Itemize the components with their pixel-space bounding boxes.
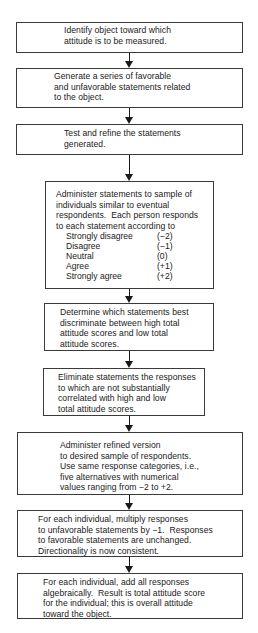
scale-row-disagree: Disagree (−1) bbox=[66, 241, 196, 251]
step-sum-line-2: algebraically. Result is total attitude … bbox=[43, 588, 205, 598]
step-reverse-line-3: to favorable statements are unchanged. bbox=[38, 535, 191, 545]
scale-label: Neutral bbox=[66, 251, 94, 261]
scale-value: (+2) bbox=[157, 271, 173, 281]
scale-row-strongly-agree: Strongly agree (+2) bbox=[66, 271, 196, 281]
step-sum-line-3: for the individual; this is overall atti… bbox=[43, 598, 193, 608]
step-determine-line-3: attitude scores and low total bbox=[60, 328, 168, 338]
step-determine-line-2: discriminate between high total bbox=[60, 318, 180, 328]
step-eliminate-line-4: total attitude scores. bbox=[58, 404, 136, 414]
step-administer-sample-line-4: to each statement according to bbox=[56, 221, 175, 231]
scale-value: (0) bbox=[157, 251, 168, 261]
arrow-down-icon bbox=[125, 155, 134, 181]
step-eliminate-line-2: to which are not substantially bbox=[58, 383, 170, 393]
step-administer-sample-line-2: individuals similar to eventual bbox=[56, 200, 169, 210]
arrow-down-icon bbox=[125, 53, 134, 68]
scale-label: Disagree bbox=[66, 241, 100, 251]
step-determine-line-1: Determine which statements best bbox=[60, 307, 189, 317]
scale-value: (−1) bbox=[157, 241, 173, 251]
scale-label: Strongly disagree bbox=[66, 231, 133, 241]
step-test-refine-line-1: Test and refine the statements bbox=[64, 128, 181, 138]
step-administer-sample-line-3: respondents. Each person responds bbox=[56, 210, 198, 220]
step-sum-line-4: toward the object. bbox=[43, 609, 112, 619]
step-administer-refined-line-2: to desired sample of respondents. bbox=[60, 451, 191, 461]
scale-row-strongly-disagree: Strongly disagree (−2) bbox=[66, 231, 196, 241]
step-generate-statements-line-2: and unfavorable statements related bbox=[54, 82, 190, 92]
step-generate-statements-line-1: Generate a series of favorable bbox=[54, 71, 171, 81]
step-generate-statements-line-3: to the object. bbox=[54, 92, 104, 102]
arrow-down-icon bbox=[125, 416, 134, 432]
scale-label: Agree bbox=[66, 261, 89, 271]
step-administer-refined-line-4: five alternatives with numerical bbox=[60, 472, 179, 482]
step-determine-line-4: attitude scores. bbox=[60, 339, 119, 349]
step-identify-object-line-1: Identify object toward which bbox=[64, 25, 171, 35]
response-scale: Strongly disagree (−2) Disagree (−1) Neu… bbox=[66, 231, 196, 282]
scale-row-neutral: Neutral (0) bbox=[66, 251, 196, 261]
step-eliminate-line-1: Eliminate statements the responses bbox=[58, 372, 196, 382]
step-eliminate-line-3: correlated with high and low bbox=[58, 393, 166, 403]
arrow-down-icon bbox=[125, 289, 134, 303]
arrow-down-icon bbox=[125, 495, 134, 510]
step-administer-sample-line-1: Administer statements to sample of bbox=[56, 189, 192, 199]
step-administer-refined-line-5: values ranging from −2 to +2. bbox=[60, 482, 173, 492]
arrow-down-icon bbox=[125, 351, 134, 368]
step-administer-refined-line-3: Use same response categories, i.e., bbox=[60, 461, 199, 471]
step-identify-object-line-2: attitude is to be measured. bbox=[64, 36, 167, 46]
arrow-down-icon bbox=[125, 108, 134, 124]
step-sum-line-1: For each individual, add all responses bbox=[43, 577, 189, 587]
step-reverse-line-4: Directionality is now consistent. bbox=[38, 546, 159, 556]
step-reverse-line-2: to unfavorable statements by −1. Respons… bbox=[38, 525, 213, 535]
scale-label: Strongly agree bbox=[66, 271, 122, 281]
scale-value: (−2) bbox=[157, 231, 173, 241]
step-administer-refined-line-1: Administer refined version bbox=[60, 440, 161, 450]
scale-row-agree: Agree (+1) bbox=[66, 261, 196, 271]
arrow-down-icon bbox=[125, 557, 134, 573]
step-reverse-line-1: For each individual, multiply responses bbox=[38, 514, 188, 524]
scale-value: (+1) bbox=[157, 261, 173, 271]
step-test-refine-line-2: generated. bbox=[64, 139, 106, 149]
